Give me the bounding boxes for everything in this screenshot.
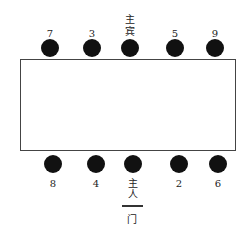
seat-chief-guest xyxy=(121,39,139,57)
seat-label-6: 6 xyxy=(208,178,228,189)
seat-label-5: 5 xyxy=(165,28,185,39)
seat-label-guest-2: 宾 xyxy=(120,26,140,37)
seat-4 xyxy=(87,155,105,173)
seat-label-4: 4 xyxy=(86,178,106,189)
seat-2 xyxy=(170,155,188,173)
seat-label-3: 3 xyxy=(82,28,102,39)
seat-label-9: 9 xyxy=(205,28,225,39)
seat-label-2: 2 xyxy=(169,178,189,189)
seat-label-8: 8 xyxy=(43,178,63,189)
seat-9 xyxy=(206,39,224,57)
seat-host xyxy=(124,155,142,173)
seat-7 xyxy=(41,39,59,57)
seat-label-7: 7 xyxy=(40,28,60,39)
door-label: 门 xyxy=(122,214,142,225)
seat-8 xyxy=(44,155,62,173)
seat-label-guest-1: 主 xyxy=(120,14,140,25)
seat-3 xyxy=(83,39,101,57)
seat-5 xyxy=(166,39,184,57)
dining-table xyxy=(20,59,236,151)
seat-label-host-1: 主 xyxy=(123,178,143,189)
seat-label-host-2: 人 xyxy=(123,189,143,200)
seat-6 xyxy=(209,155,227,173)
door-line xyxy=(122,205,143,207)
